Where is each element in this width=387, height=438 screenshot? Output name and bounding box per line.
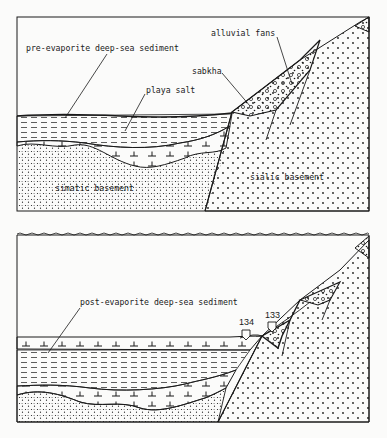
- upper-panel: pre-evaporite deep-sea sediment playa sa…: [17, 17, 369, 211]
- sialic-basement-lower: [218, 240, 369, 422]
- label-sialic-basement: sialic basement: [250, 172, 324, 182]
- site-133-label: 133: [265, 310, 280, 320]
- cross-section-figure: pre-evaporite deep-sea sediment playa sa…: [0, 0, 387, 438]
- label-pre-evaporite: pre-evaporite deep-sea sediment: [26, 43, 179, 53]
- lower-panel: post-evaporite deep-sea sediment 134 133: [17, 233, 369, 422]
- label-post-evaporite: post-evaporite deep-sea sediment: [80, 297, 238, 307]
- site-134-label: 134: [239, 317, 254, 327]
- label-playa-salt: playa salt: [146, 85, 195, 95]
- label-sabkha: sabkha: [192, 66, 222, 76]
- post-evaporite-sediment: [17, 336, 262, 350]
- label-alluvial-fans: alluvial fans: [211, 28, 275, 38]
- label-simatic-basement: simatic basement: [55, 183, 134, 193]
